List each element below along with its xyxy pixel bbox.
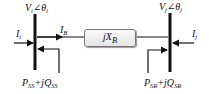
reactance-box: jXB bbox=[84, 29, 136, 47]
power-receiving-label: PSR+jQSR bbox=[144, 78, 181, 91]
bus-j-voltage-label: Vj∠θj bbox=[159, 2, 182, 15]
current-j-label: Ij bbox=[192, 29, 197, 42]
bus-i-voltage-label: Vi∠θi bbox=[25, 3, 48, 16]
reactance-label: jXB bbox=[103, 31, 117, 45]
current-branch-label: IB bbox=[60, 25, 67, 38]
current-i-label: Ii bbox=[16, 29, 21, 42]
power-sending-label: PSS+jQSS bbox=[22, 78, 58, 91]
